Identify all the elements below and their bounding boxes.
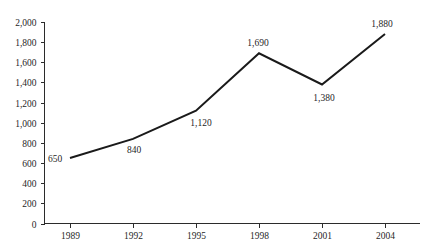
y-axis-ticks [41, 23, 45, 225]
data-point-labels: 6508401,1201,6901,3801,880 [48, 19, 393, 164]
x-tick-label: 2004 [376, 231, 395, 241]
data-point-label: 1,690 [247, 38, 269, 48]
data-point-label: 840 [127, 145, 142, 155]
data-line-series [70, 34, 385, 158]
y-tick-label: 1,600 [15, 58, 37, 68]
y-tick-label: 1,400 [15, 78, 37, 88]
y-tick-label: 2,000 [15, 18, 37, 28]
x-tick-label: 2001 [313, 231, 332, 241]
x-axis-ticks [71, 224, 386, 228]
x-tick-label: 1998 [250, 231, 269, 241]
y-axis: 02004006008001,0001,2001,4001,6001,8002,… [15, 18, 44, 230]
data-series-group [70, 34, 385, 158]
data-point-label: 1,120 [190, 118, 212, 128]
y-tick-label: 800 [22, 139, 37, 149]
data-point-label: 1,380 [313, 93, 335, 103]
data-point-label: 1,880 [371, 19, 393, 29]
data-point-label: 650 [48, 154, 63, 164]
y-tick-label: 1,200 [15, 99, 37, 109]
x-tick-label: 1989 [61, 231, 80, 241]
y-tick-label: 200 [22, 199, 37, 209]
x-tick-label: 1992 [124, 231, 143, 241]
y-axis-tick-labels: 02004006008001,0001,2001,4001,6001,8002,… [15, 18, 37, 230]
y-tick-label: 1,800 [15, 38, 37, 48]
x-tick-label: 1995 [187, 231, 206, 241]
y-tick-label: 0 [32, 220, 37, 230]
x-axis: 198919921995199820012004 [45, 224, 421, 241]
y-tick-label: 1,000 [15, 119, 37, 129]
y-tick-label: 400 [22, 179, 37, 189]
x-axis-tick-labels: 198919921995199820012004 [61, 231, 395, 241]
line-chart: 02004006008001,0001,2001,4001,6001,8002,… [0, 0, 423, 246]
y-tick-label: 600 [22, 159, 37, 169]
chart-canvas: 02004006008001,0001,2001,4001,6001,8002,… [0, 0, 423, 246]
